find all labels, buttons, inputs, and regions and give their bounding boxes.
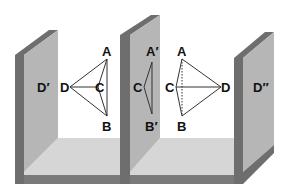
left-label-d: D <box>60 80 69 95</box>
left-label-b: B <box>102 119 111 134</box>
right-label-d: D <box>221 80 230 95</box>
right-wall-edge <box>234 58 243 184</box>
left-label-a: A <box>102 44 112 59</box>
right-label-a: A <box>177 44 187 59</box>
middle-wall-edge <box>120 35 130 184</box>
left-label-c: C <box>95 80 105 95</box>
projection-diagram: A B C D D′ A′ B′ C A B C D D″ <box>0 0 294 192</box>
right-tetrahedron <box>176 59 221 116</box>
right-label-b: B <box>177 119 186 134</box>
middle-label-b-prime: B′ <box>145 119 158 134</box>
middle-label-a-prime: A′ <box>146 44 159 59</box>
left-wall-edge <box>15 55 24 184</box>
middle-label-c: C <box>133 80 143 95</box>
left-wall-label-d-prime: D′ <box>37 80 50 95</box>
right-wall-label-d-double-prime: D″ <box>253 80 269 95</box>
right-label-c: C <box>165 80 175 95</box>
